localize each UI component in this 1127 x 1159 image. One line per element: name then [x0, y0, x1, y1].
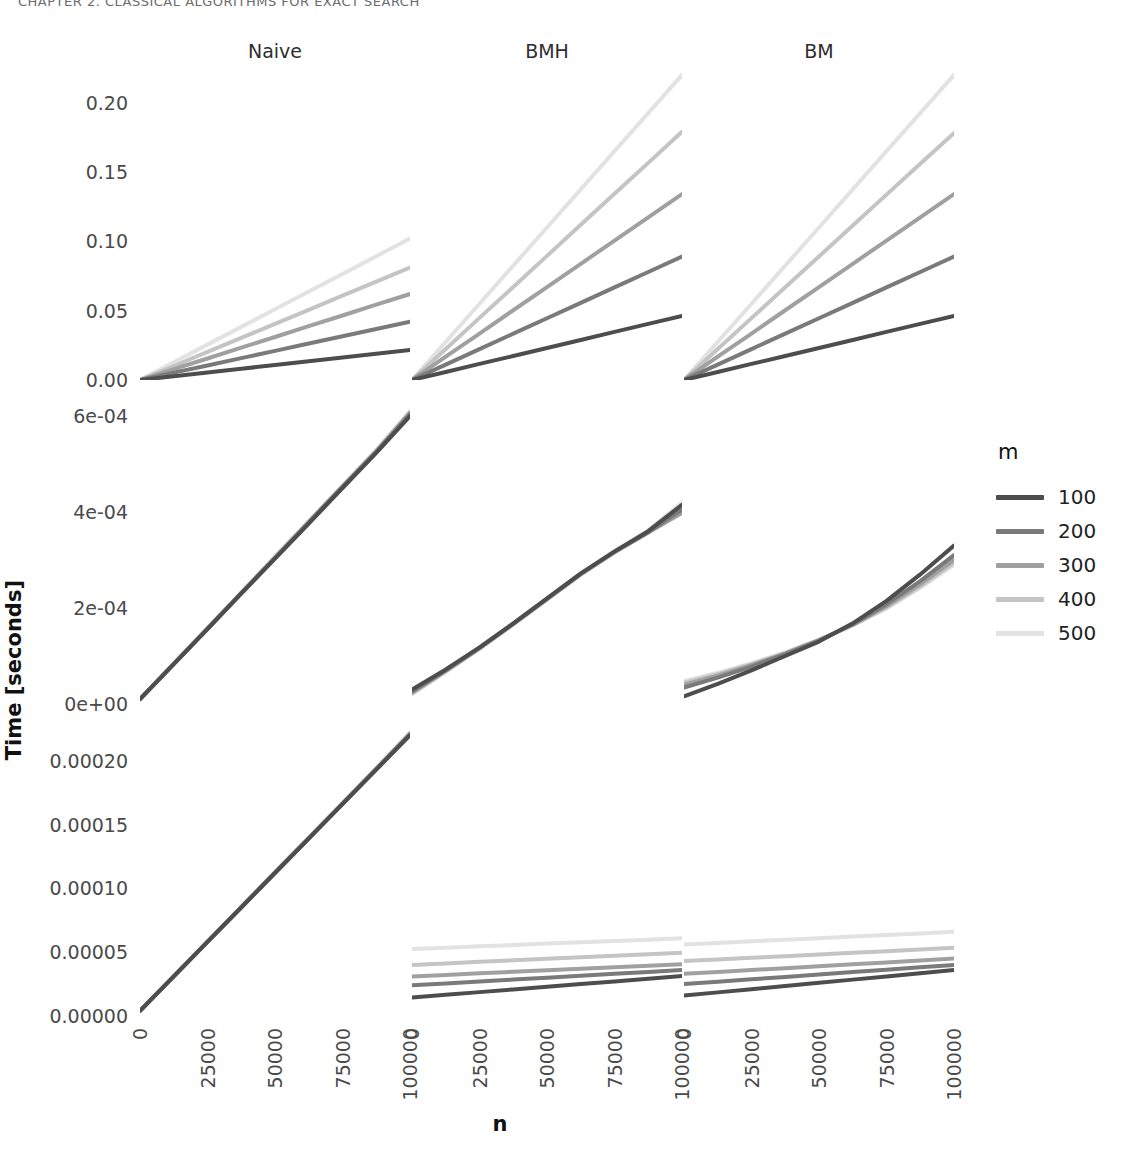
series-line-m-200 [140, 322, 410, 380]
panel-plot-area [684, 716, 954, 1016]
panel-plot-area [412, 716, 682, 1016]
panel-equal-bmh [412, 68, 682, 380]
x-tick-label: 25000 [741, 1028, 763, 1088]
panel-plot-area [412, 68, 682, 380]
legend-entry-label: 200 [1058, 519, 1096, 543]
legend-key-swatch [996, 529, 1044, 534]
series-line-m-200 [412, 257, 682, 380]
panel-equal-naive [140, 68, 410, 380]
legend-entry[interactable]: 100 [996, 480, 1121, 514]
y-tick-label: 0.00010 [0, 877, 128, 899]
y-tick-label: 0.00 [0, 369, 128, 391]
faceted-line-chart: Naive BMH BM EQUAL DNA 8-bit Time [secon… [0, 0, 1127, 1159]
x-tick-label: 0 [129, 1028, 151, 1040]
panel-8-bit-bm [684, 716, 954, 1016]
series-line-m-400 [412, 953, 682, 965]
y-tick-label: 0.05 [0, 300, 128, 322]
y-tick-label: 0.00015 [0, 814, 128, 836]
series-line-m-100 [140, 416, 410, 699]
legend-entries: 100200300400500 [996, 480, 1121, 650]
panel-equal-bm [684, 68, 954, 380]
series-line-m-500 [684, 75, 954, 380]
panel-plot-area [140, 716, 410, 1016]
panel-dna-naive [140, 392, 410, 704]
facet-column-label-bm: BM [684, 38, 954, 64]
legend-entry-label: 500 [1058, 621, 1096, 645]
legend-title: m [998, 440, 1121, 464]
series-line-m-100 [140, 735, 410, 1011]
y-tick-label: 0e+00 [0, 693, 128, 715]
y-tick-label: 2e-04 [0, 597, 128, 619]
series-line-m-300 [684, 194, 954, 380]
legend-key-swatch [996, 495, 1044, 500]
series-line-m-500 [412, 938, 682, 949]
series-line-m-500 [140, 239, 410, 380]
series-line-m-200 [684, 257, 954, 380]
legend-entry[interactable]: 300 [996, 548, 1121, 582]
panel-8-bit-naive [140, 716, 410, 1016]
x-tick-label: 50000 [536, 1028, 558, 1088]
x-tick-label: 50000 [808, 1028, 830, 1088]
series-line-m-100 [412, 316, 682, 380]
y-tick-label: 0.20 [0, 92, 128, 114]
x-tick-label: 25000 [469, 1028, 491, 1088]
x-tick-label: 75000 [332, 1028, 354, 1088]
panel-plot-area [140, 392, 410, 704]
legend-key-swatch [996, 631, 1044, 636]
series-line-m-300 [412, 194, 682, 380]
y-tick-label: 0.15 [0, 161, 128, 183]
y-tick-label: 6e-04 [0, 405, 128, 427]
x-tick-label: 0 [401, 1028, 423, 1040]
series-line-m-300 [412, 964, 682, 976]
legend-entry[interactable]: 500 [996, 616, 1121, 650]
series-line-m-400 [412, 132, 682, 380]
legend: m 100200300400500 [996, 440, 1121, 650]
legend-entry-label: 300 [1058, 553, 1096, 577]
panel-plot-area [412, 392, 682, 704]
y-tick-label: 0.00005 [0, 941, 128, 963]
x-axis-title: n [0, 1112, 1000, 1136]
legend-entry-label: 400 [1058, 587, 1096, 611]
panel-dna-bmh [412, 392, 682, 704]
facet-column-label-naive: Naive [140, 38, 410, 64]
y-tick-label: 0.00020 [0, 750, 128, 772]
legend-entry[interactable]: 400 [996, 582, 1121, 616]
x-tick-label: 75000 [604, 1028, 626, 1088]
x-tick-label: 50000 [264, 1028, 286, 1088]
y-tick-label: 0.00000 [0, 1005, 128, 1027]
y-tick-label: 4e-04 [0, 501, 128, 523]
panel-plot-area [684, 68, 954, 380]
series-line-m-400 [684, 133, 954, 380]
x-tick-label: 25000 [197, 1028, 219, 1088]
panel-plot-area [140, 68, 410, 380]
series-line-m-500 [412, 75, 682, 380]
panel-8-bit-bmh [412, 716, 682, 1016]
panel-plot-area [684, 392, 954, 704]
series-line-m-500 [684, 932, 954, 945]
legend-key-swatch [996, 563, 1044, 568]
panel-dna-bm [684, 392, 954, 704]
x-tick-label: 100000 [943, 1028, 965, 1101]
series-line-m-300 [140, 294, 410, 380]
facet-column-label-bmh: BMH [412, 38, 682, 64]
legend-key-swatch [996, 597, 1044, 602]
y-tick-label: 0.10 [0, 230, 128, 252]
x-tick-label: 0 [673, 1028, 695, 1040]
series-line-m-200 [684, 555, 954, 687]
x-tick-label: 75000 [876, 1028, 898, 1088]
series-line-m-100 [684, 316, 954, 380]
series-line-m-500 [684, 565, 954, 681]
legend-entry[interactable]: 200 [996, 514, 1121, 548]
legend-entry-label: 100 [1058, 485, 1096, 509]
